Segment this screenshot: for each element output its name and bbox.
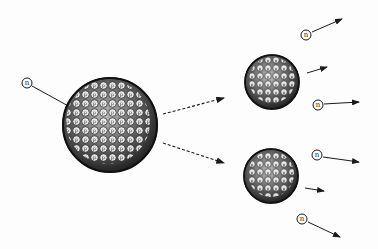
released-neutron-3: n (312, 150, 359, 162)
svg-text:n: n (316, 101, 321, 109)
svg-text:n: n (300, 215, 305, 223)
released-neutron-2: n (313, 100, 359, 110)
svg-text:n: n (304, 31, 309, 39)
fragment-upper (245, 55, 299, 109)
released-neutron-1: n (301, 19, 342, 40)
released-neutron-4: n (297, 214, 340, 237)
neutron-label: n (25, 79, 30, 87)
fission-diagram: p p n n n (0, 0, 378, 249)
dashed-arrow-upper (163, 98, 224, 114)
parent-nucleus (63, 78, 157, 172)
incoming-neutron: n (22, 78, 72, 108)
fragment-lower-motion-arrow (305, 188, 324, 191)
fragment-upper-motion-arrow (307, 67, 327, 73)
dashed-arrow-lower (163, 143, 224, 163)
svg-text:n: n (315, 151, 320, 159)
fragment-lower (244, 149, 298, 203)
